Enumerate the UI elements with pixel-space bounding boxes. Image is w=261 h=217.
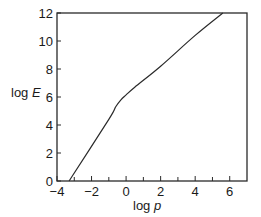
data-series	[69, 13, 223, 181]
y-tick-label: 8	[46, 62, 53, 77]
x-axis-title-var: p	[153, 198, 161, 213]
x-axis-title: log p	[133, 198, 161, 213]
y-tick-label: 2	[46, 146, 53, 161]
x-axis-ticks: −4−20246	[50, 176, 234, 199]
y-axis-title-prefix: log	[11, 85, 32, 100]
x-tick-label: −2	[84, 184, 99, 199]
x-tick-label: 4	[192, 184, 199, 199]
y-axis-title: log E	[11, 85, 41, 100]
x-tick-label: 0	[122, 184, 129, 199]
y-tick-label: 10	[39, 34, 53, 49]
y-tick-label: 12	[39, 6, 53, 21]
x-tick-label: 6	[226, 184, 233, 199]
x-axis-title-prefix: log	[133, 198, 154, 213]
y-tick-label: 6	[46, 90, 53, 105]
y-tick-label: 4	[46, 118, 53, 133]
chart: −4−20246 024681012 log E log p	[0, 0, 261, 217]
x-tick-label: 2	[157, 184, 164, 199]
series-line	[69, 13, 223, 181]
y-axis-title-var: E	[32, 85, 41, 100]
y-tick-label: 0	[46, 174, 53, 189]
